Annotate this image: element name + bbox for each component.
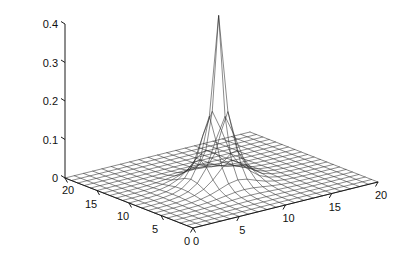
z-tick-label: 0 bbox=[52, 172, 58, 184]
z-tick-mark bbox=[61, 137, 65, 140]
x-tick-label: 5 bbox=[239, 224, 245, 236]
mesh-line-x bbox=[142, 116, 327, 208]
y-tick-label: 15 bbox=[85, 198, 97, 210]
z-tick-mark bbox=[61, 60, 65, 63]
x-tick-mark bbox=[191, 228, 194, 233]
z-tick-mark bbox=[61, 176, 65, 179]
x-tick-label: 10 bbox=[282, 212, 294, 224]
plot-canvas: 051015200510152000.10.20.30.4 bbox=[0, 0, 420, 276]
surface-plot-figure: 051015200510152000.10.20.30.4 bbox=[0, 0, 420, 276]
z-tick-label: 0.4 bbox=[43, 18, 58, 30]
y-tick-mark bbox=[193, 228, 196, 233]
mesh-line-y bbox=[185, 148, 313, 198]
y-tick-label: 20 bbox=[62, 184, 74, 196]
z-tick-mark bbox=[61, 99, 65, 102]
z-tick-label: 0.2 bbox=[43, 95, 58, 107]
x-tick-label: 15 bbox=[329, 201, 341, 213]
y-tick-label: 0 bbox=[184, 235, 190, 247]
x-tick-label: 20 bbox=[375, 189, 387, 201]
y-tick-label: 10 bbox=[117, 210, 129, 222]
y-tick-label: 5 bbox=[152, 223, 158, 235]
z-tick-label: 0.3 bbox=[43, 57, 58, 69]
x-tick-label: 0 bbox=[193, 235, 199, 247]
z-tick-mark bbox=[61, 22, 65, 25]
mesh-line-y bbox=[84, 173, 212, 223]
z-tick-label: 0.1 bbox=[43, 134, 58, 146]
